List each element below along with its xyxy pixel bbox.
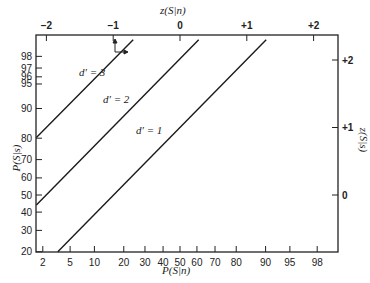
- y2-tick-label: 0: [342, 190, 348, 201]
- roc-line-d-prime-2: [36, 40, 198, 205]
- x2-axis-title: z(S|n): [159, 4, 186, 17]
- y-tick-label: 20: [21, 246, 33, 257]
- y2-tick-label: +2: [342, 55, 354, 66]
- x-axis-title: P(S|n): [161, 264, 190, 277]
- y-axis-left: 203040506070809095969798: [21, 51, 42, 257]
- y-tick-label: 50: [21, 190, 33, 201]
- x-tick-label: 20: [118, 257, 130, 268]
- roc-line-d-prime-3: [36, 40, 133, 138]
- x2-tick-label: +1: [241, 20, 253, 31]
- y-tick-label: 80: [21, 133, 33, 144]
- y-axis-right: 0+1+2: [332, 55, 354, 201]
- y-tick-label: 90: [21, 103, 33, 114]
- y-tick-label: 70: [21, 154, 33, 165]
- x2-tick-label: −2: [41, 20, 53, 31]
- x-tick-label: 10: [89, 257, 101, 268]
- x-tick-label: 2: [40, 257, 46, 268]
- arrowhead-right-icon: [124, 50, 128, 54]
- y-tick-label: 98: [21, 51, 33, 62]
- y-tick-label: 60: [21, 172, 33, 183]
- x-tick-label: 5: [67, 257, 73, 268]
- x-tick-label: 90: [260, 257, 272, 268]
- x-tick-label: 98: [312, 257, 324, 268]
- x-tick-label: 30: [139, 257, 151, 268]
- x-tick-label: 95: [284, 257, 296, 268]
- x-axis-top: −2−10+1+2: [41, 20, 320, 41]
- y2-tick-label: +1: [342, 122, 354, 133]
- y2-axis-title: z(S|s): [357, 127, 370, 153]
- x2-tick-label: +2: [308, 20, 320, 31]
- y-axis-title: P(S|s): [10, 144, 23, 172]
- x2-tick-label: −1: [107, 20, 119, 31]
- label-d-prime-1: d′ = 1: [136, 124, 162, 136]
- y-tick-label: 97: [21, 63, 33, 74]
- roc-curves: [36, 40, 266, 252]
- x-tick-label: 60: [191, 257, 203, 268]
- label-d-prime-3: d′ = 3: [79, 66, 106, 78]
- y-tick-label: 40: [21, 207, 33, 218]
- y-tick-label: 30: [21, 225, 33, 236]
- x2-tick-label: 0: [177, 20, 183, 31]
- x-tick-label: 80: [231, 257, 243, 268]
- label-d-prime-2: d′ = 2: [103, 93, 130, 105]
- x-tick-label: 70: [209, 257, 221, 268]
- roc-chart: 251020304050607080909598 203040506070809…: [0, 0, 370, 283]
